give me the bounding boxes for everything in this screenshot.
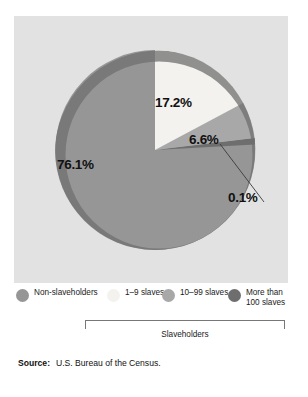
source-text: U.S. Bureau of the Census.: [56, 358, 161, 368]
legend-item-more-than-100-slaves: More than 100 slaves: [228, 288, 285, 307]
legend-label: 1–9 slaves: [125, 288, 164, 298]
slaveholders-bracket: [85, 320, 285, 329]
legend-swatch-circle-icon: [16, 289, 29, 302]
legend-swatch-circle-icon: [228, 289, 241, 302]
chart-legend: Non-slaveholders 1–9 slaves 10–99 slaves…: [14, 288, 294, 318]
data-label-1-9-slaves: 17.2%: [155, 95, 192, 110]
legend-item-10-99-slaves: 10–99 slaves: [162, 288, 228, 302]
legend-label: 10–99 slaves: [180, 288, 228, 298]
source-note: Source:U.S. Bureau of the Census.: [18, 358, 161, 368]
legend-item-non-slaveholders: Non-slaveholders: [16, 288, 98, 302]
legend-label: Non-slaveholders: [34, 288, 98, 298]
data-label-10-99-slaves: 6.6%: [189, 132, 219, 147]
pie-chart-svg: [14, 16, 288, 283]
data-label-more-than-100-slaves: 0.1%: [228, 190, 258, 205]
slaveholders-bracket-label: Slaveholders: [85, 330, 285, 339]
legend-item-1-9-slaves: 1–9 slaves: [107, 288, 164, 302]
legend-swatch-circle-icon: [107, 289, 120, 302]
figure-container: 17.2% 6.6% 76.1% 0.1% Non-slaveholders 1…: [0, 0, 308, 397]
pie-chart: [14, 16, 288, 283]
legend-label: More than 100 slaves: [246, 288, 285, 307]
data-label-non-slaveholders: 76.1%: [57, 157, 94, 172]
legend-swatch-circle-icon: [162, 289, 175, 302]
source-prefix: Source:: [18, 358, 50, 368]
